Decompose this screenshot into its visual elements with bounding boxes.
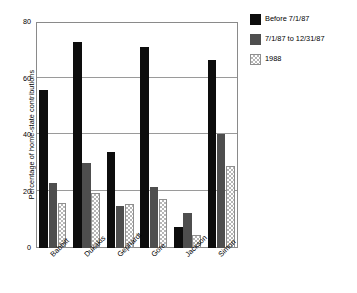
legend-item: Before 7/1/87: [250, 14, 356, 25]
x-tick-label: Simon: [217, 238, 237, 258]
legend-swatch-icon: [250, 54, 261, 65]
x-tick-label: Dukakis: [83, 234, 107, 258]
legend-item: 7/1/87 to 12/31/87: [250, 34, 356, 45]
legend-item: 1988: [250, 54, 356, 65]
legend-label: 1988: [265, 54, 281, 64]
legend-swatch-icon: [250, 14, 261, 25]
legend-label: 7/1/87 to 12/31/87: [265, 34, 325, 44]
x-tick-label: Gore: [150, 241, 167, 258]
x-tick-label: Gephardt: [116, 231, 143, 258]
bar-chart: Percentage of home-state contributions 0…: [0, 0, 357, 293]
x-tick-label: Jackson: [184, 234, 209, 259]
legend-swatch-icon: [250, 34, 261, 45]
legend-label: Before 7/1/87: [265, 14, 309, 24]
x-tick-label: Babbitt: [49, 237, 71, 259]
chart-legend: Before 7/1/877/1/87 to 12/31/871988: [250, 14, 356, 74]
